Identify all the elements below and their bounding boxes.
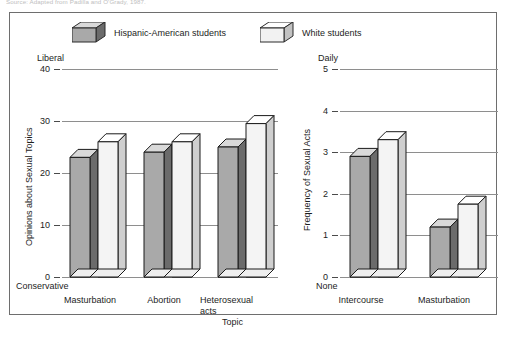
chart-panel-opinions: Liberal Opinions about Sexual Topics 40 … [10, 13, 288, 314]
left-plot-area: 40 30 20 10 0 [62, 63, 278, 283]
right-category-label-intercourse: Intercourse [322, 295, 400, 306]
left-bottom-anchor-label: Conservative [16, 281, 69, 291]
left-tick-40 [54, 69, 60, 70]
right-tick-label-3: 3 [306, 147, 328, 157]
right-bottom-anchor-label: None [316, 281, 338, 291]
left-category-label-masturbation: Masturbation [48, 295, 132, 306]
left-tick-30 [54, 121, 60, 122]
bar-heterosexual-white [246, 116, 274, 277]
left-tick-label-40: 40 [26, 64, 50, 74]
right-y-axis-title: Frequency of Sexual Acts [302, 129, 312, 231]
right-plot-area: 5 4 3 2 1 0 [340, 63, 498, 283]
left-tick-0 [54, 277, 60, 278]
right-tick-4 [332, 111, 338, 112]
chart-panel-frequency: Daily Frequency of Sexual Acts 5 4 3 2 1… [288, 13, 498, 314]
source-caption: Source: Adapted from Padilla and O'Grady… [6, 0, 146, 5]
left-tick-label-30: 30 [26, 116, 50, 126]
bar-r-masturbation-white [458, 196, 486, 277]
left-floor-slabs [70, 269, 274, 277]
bar-abortion-hispanic [144, 144, 172, 277]
right-category-label-masturbation: Masturbation [402, 295, 486, 306]
bar-masturbation-hispanic [70, 149, 98, 277]
bar-intercourse-white [378, 132, 406, 277]
right-tick-0 [332, 277, 338, 278]
left-tick-20 [54, 173, 60, 174]
right-top-anchor-label: Daily [318, 53, 338, 63]
figure-frame: Hispanic-American students White student… [9, 12, 497, 315]
left-top-anchor-label: Liberal [37, 53, 64, 63]
left-bars [62, 63, 278, 295]
left-category-label-abortion: Abortion [130, 295, 198, 306]
bar-abortion-white [172, 134, 200, 277]
bar-masturbation-white [98, 134, 126, 277]
bar-intercourse-hispanic [350, 148, 378, 277]
left-tick-10 [54, 225, 60, 226]
right-tick-label-5: 5 [306, 64, 328, 74]
right-tick-1 [332, 235, 338, 236]
left-tick-label-10: 10 [26, 220, 50, 230]
left-tick-label-20: 20 [26, 168, 50, 178]
bar-r-masturbation-hispanic [430, 219, 458, 277]
x-axis-title: Topic [222, 317, 243, 327]
right-tick-5 [332, 69, 338, 70]
right-bars [340, 63, 498, 295]
bar-heterosexual-hispanic [218, 139, 246, 277]
right-tick-label-1: 1 [306, 230, 328, 240]
right-tick-label-2: 2 [306, 189, 328, 199]
left-category-label-heterosexual: Heterosexual acts [200, 295, 262, 316]
right-tick-2 [332, 194, 338, 195]
right-tick-label-4: 4 [306, 106, 328, 116]
right-floor-slabs [350, 269, 486, 277]
right-tick-3 [332, 152, 338, 153]
